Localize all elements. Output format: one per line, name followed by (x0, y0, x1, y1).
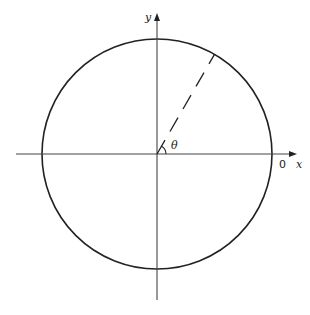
x-axis-arrow-icon (289, 151, 297, 157)
origin-point-label: 0 (279, 158, 286, 171)
diagram-canvas: y x θ 0 (0, 0, 310, 315)
radius-dashed-line (157, 54, 215, 154)
y-axis-arrow-icon (154, 13, 160, 21)
y-axis-label: y (144, 11, 152, 24)
x-axis-label: x (296, 158, 303, 171)
angle-label: θ (171, 139, 178, 152)
angle-arc (162, 146, 167, 154)
